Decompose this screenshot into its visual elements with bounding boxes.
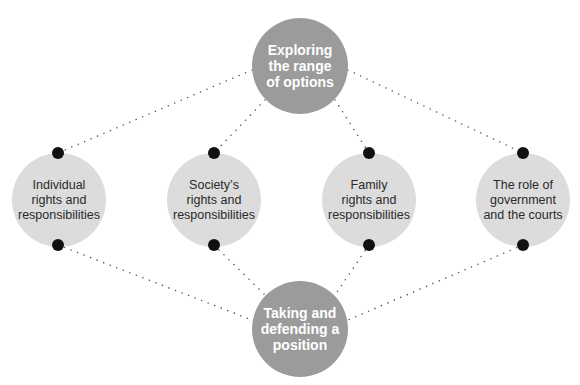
topic-line: responsibilities [173, 208, 255, 223]
topic-line: The role of [483, 178, 562, 193]
connector-government-to-bottom [348, 245, 523, 320]
topic-line: responsibilities [18, 208, 100, 223]
topic-line: Family [328, 178, 410, 193]
topic-node-society: Society’s rights and responsibilities [167, 153, 261, 247]
concept-diagram: Exploring the range of options Individua… [0, 0, 580, 385]
topic-node-label: The role of government and the courts [479, 178, 566, 223]
connector-top-to-government [348, 70, 523, 153]
top-node-line-1: Exploring [266, 42, 334, 58]
connector-top-to-family [335, 100, 369, 153]
topic-node-label: Society’s rights and responsibilities [169, 178, 259, 223]
connector-society-to-bottom [214, 245, 265, 295]
top-node-label: Exploring the range of options [262, 42, 338, 90]
top-node-exploring-options: Exploring the range of options [252, 18, 348, 114]
top-node-line-3: of options [266, 74, 334, 90]
pin-family-top [363, 147, 375, 159]
topic-node-label: Individual rights and responsibilities [14, 178, 104, 223]
topic-node-family: Family rights and responsibilities [322, 153, 416, 247]
bottom-node-line-1: Taking and [261, 305, 340, 321]
pin-society-top [208, 147, 220, 159]
topic-node-label: Family rights and responsibilities [324, 178, 414, 223]
bottom-node-label: Taking and defending a position [257, 305, 344, 353]
bottom-node-line-2: defending a [261, 321, 340, 337]
top-node-line-2: the range [266, 58, 334, 74]
connector-top-to-individual [58, 70, 252, 153]
bottom-node-taking-position: Taking and defending a position [252, 281, 348, 377]
topic-line: rights and [18, 193, 100, 208]
topic-node-individual: Individual rights and responsibilities [12, 153, 106, 247]
pin-society-bottom [208, 239, 220, 251]
topic-line: and the courts [483, 208, 562, 223]
pin-family-bottom [363, 239, 375, 251]
connector-family-to-bottom [335, 245, 369, 295]
connector-top-to-society [214, 100, 265, 153]
pin-government-bottom [517, 239, 529, 251]
topic-line: rights and [173, 193, 255, 208]
topic-line: responsibilities [328, 208, 410, 223]
pin-individual-top [52, 147, 64, 159]
topic-line: Individual [18, 178, 100, 193]
topic-line: rights and [328, 193, 410, 208]
bottom-node-line-3: position [261, 337, 340, 353]
pin-individual-bottom [52, 239, 64, 251]
pin-government-top [517, 147, 529, 159]
topic-line: Society’s [173, 178, 255, 193]
connector-individual-to-bottom [58, 245, 252, 320]
topic-node-government: The role of government and the courts [476, 153, 570, 247]
topic-line: government [483, 193, 562, 208]
